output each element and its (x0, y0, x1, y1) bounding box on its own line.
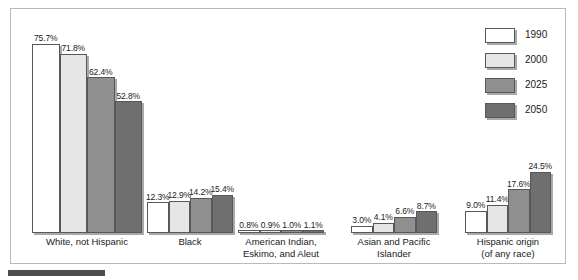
bar-slot: 71.8% (60, 8, 88, 233)
bar-value-label: 15.4% (210, 185, 234, 194)
bar-slot: 62.4% (87, 8, 115, 233)
bar-slot: 8.7% (416, 8, 438, 233)
bar-group: 75.7%71.8%62.4%52.8% (32, 8, 142, 233)
bar-value-label: 52.8% (116, 92, 140, 101)
bar-2025: 1.0% (281, 230, 303, 233)
bar-slot: 1.0% (281, 8, 303, 233)
bar-group-bars: 0.8%0.9%1.0%1.1% (238, 8, 324, 233)
bar-2050: 24.5% (530, 172, 552, 233)
bar-value-label: 75.7% (34, 34, 58, 43)
bar-group-bars: 75.7%71.8%62.4%52.8% (32, 8, 142, 233)
bar-value-label: 17.6% (507, 180, 531, 189)
bar-1990: 9.0% (465, 211, 487, 234)
bar-value-label: 14.2% (189, 188, 213, 197)
bar-1990: 3.0% (351, 226, 373, 234)
bar-value-label: 1.1% (304, 221, 323, 230)
bar-chart-figure: 75.7%71.8%62.4%52.8%12.3%12.9%14.2%15.4%… (0, 0, 578, 280)
bar-2000: 4.1% (373, 223, 395, 233)
bar-group-bars: 12.3%12.9%14.2%15.4% (147, 8, 233, 233)
bar-value-label: 71.8% (61, 44, 85, 53)
bar-1990: 12.3% (147, 202, 169, 233)
bar-slot: 0.8% (238, 8, 260, 233)
bar-value-label: 6.6% (395, 207, 414, 216)
bar-2050: 8.7% (416, 211, 438, 233)
legend-swatch (485, 28, 515, 43)
bar-slot: 6.6% (394, 8, 416, 233)
legend-item-2050: 2050 (485, 99, 560, 121)
bar-2025: 62.4% (87, 77, 115, 233)
bar-group-bars: 3.0%4.1%6.6%8.7% (351, 8, 437, 233)
bar-slot: 3.0% (351, 8, 373, 233)
legend-label: 1990 (525, 30, 547, 40)
bar-slot: 15.4% (212, 8, 234, 233)
bar-value-label: 1.0% (282, 221, 301, 230)
bar-1990: 75.7% (32, 44, 60, 233)
bar-slot: 75.7% (32, 8, 60, 233)
bar-value-label: 0.8% (239, 221, 258, 230)
bar-2000: 11.4% (487, 205, 509, 234)
bar-2025: 14.2% (190, 198, 212, 234)
legend-item-2025: 2025 (485, 74, 560, 96)
plot-area: 75.7%71.8%62.4%52.8%12.3%12.9%14.2%15.4%… (10, 8, 566, 233)
legend-label: 2025 (525, 80, 547, 90)
bar-2025: 6.6% (394, 217, 416, 234)
bar-group: 12.3%12.9%14.2%15.4% (147, 8, 233, 233)
legend-item-2000: 2000 (485, 49, 560, 71)
bar-2050: 1.1% (303, 230, 325, 233)
chart-legend: 1990200020252050 (485, 24, 560, 124)
bar-value-label: 3.0% (352, 216, 371, 225)
category-label: Asian and Pacific Islander (329, 236, 459, 259)
legend-swatch (485, 78, 515, 93)
legend-label: 2000 (525, 55, 547, 65)
bar-slot: 52.8% (115, 8, 143, 233)
bar-2000: 0.9% (260, 230, 282, 233)
bar-slot: 12.9% (169, 8, 191, 233)
bar-2000: 12.9% (169, 201, 191, 233)
bar-value-label: 0.9% (261, 221, 280, 230)
category-label: American Indian, Eskimo, and Aleut (216, 236, 346, 259)
bar-slot: 0.9% (260, 8, 282, 233)
bar-1990: 0.8% (238, 230, 260, 233)
bar-group: 0.8%0.9%1.0%1.1% (238, 8, 324, 233)
bar-2000: 71.8% (60, 54, 88, 234)
bar-slot: 1.1% (303, 8, 325, 233)
bar-slot: 14.2% (190, 8, 212, 233)
bar-group: 3.0%4.1%6.6%8.7% (351, 8, 437, 233)
bar-value-label: 11.4% (486, 195, 509, 204)
bar-slot: 4.1% (373, 8, 395, 233)
bar-slot: 9.0% (465, 8, 487, 233)
bar-2025: 17.6% (508, 189, 530, 233)
bar-2050: 52.8% (115, 101, 143, 233)
caption-rule (8, 270, 105, 276)
category-label: Hispanic origin (of any race) (443, 236, 573, 259)
bar-slot: 12.3% (147, 8, 169, 233)
bar-value-label: 12.3% (146, 193, 170, 202)
legend-swatch (485, 103, 515, 118)
bar-value-label: 4.1% (374, 213, 393, 222)
bar-2050: 15.4% (212, 195, 234, 234)
bar-value-label: 8.7% (417, 202, 436, 211)
legend-label: 2050 (525, 105, 547, 115)
bar-value-label: 9.0% (466, 201, 485, 210)
bar-value-label: 12.9% (167, 191, 191, 200)
bar-value-label: 24.5% (528, 162, 552, 171)
bar-value-label: 62.4% (89, 68, 113, 77)
legend-swatch (485, 53, 515, 68)
legend-item-1990: 1990 (485, 24, 560, 46)
